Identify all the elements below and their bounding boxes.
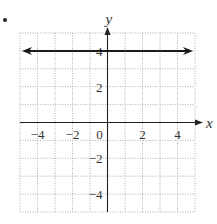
x-tick-label: −4	[31, 127, 45, 142]
y-tick-label: −4	[89, 187, 103, 202]
x-tick-label: 4	[174, 127, 181, 142]
y-axis-label: y	[104, 11, 113, 27]
axes	[20, 27, 203, 212]
x-tick-label: 0	[96, 127, 103, 142]
y-axis-arrow-icon	[105, 27, 111, 35]
x-axis-arrow-icon	[195, 120, 203, 126]
x-axis-label: x	[205, 115, 213, 131]
coordinate-plane: −4−202442−2−4 x y	[0, 0, 217, 224]
y-tick-label: −2	[89, 151, 103, 166]
x-tick-label: 2	[139, 127, 146, 142]
y-tick-label: 2	[96, 80, 103, 95]
x-tick-label: −2	[66, 127, 80, 142]
